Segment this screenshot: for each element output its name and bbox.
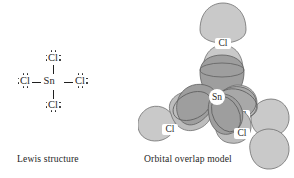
orbital-label-sn: Sn — [209, 89, 225, 105]
lewis-label-cl-bottom: Cl — [48, 100, 58, 111]
orbital-overlap-panel: .cl-lobe{fill:#c9c9c9;stroke:#6e6e6e;str… — [138, 0, 294, 178]
lone-pair-dot — [46, 55, 48, 57]
lewis-structure-panel: Cl Cl Sn Cl — [0, 0, 147, 178]
lewis-label-cl-top: Cl — [48, 53, 58, 64]
lone-pair-dot — [59, 106, 61, 108]
lewis-label-cl-left: Cl — [20, 76, 30, 87]
lewis-label-sn: Sn — [44, 76, 55, 87]
lone-pair-dot — [46, 102, 48, 104]
lone-pair-dot — [55, 110, 57, 112]
orbital-label-cl-top: Cl — [215, 38, 231, 49]
lone-pair-dot — [51, 110, 53, 112]
cl-left-label-text: Cl — [166, 124, 175, 134]
lone-pair-dot — [46, 59, 48, 61]
cl-top-label-text: Cl — [219, 38, 228, 48]
lone-pair-dot — [86, 82, 88, 84]
lone-pair-dot — [59, 55, 61, 57]
sn-label-text: Sn — [212, 92, 222, 102]
lewis-caption: Lewis structure — [17, 153, 79, 164]
lone-pair-dot — [86, 78, 88, 80]
lewis-bond-bottom — [53, 90, 54, 99]
lone-pair-dot — [46, 106, 48, 108]
cl-right-lower-outer-lobe — [250, 129, 289, 169]
lewis-bond-top — [53, 65, 54, 74]
lone-pair-dot — [59, 102, 61, 104]
lone-pair-dot — [59, 59, 61, 61]
lewis-label-cl-right: Cl — [75, 76, 85, 87]
lewis-bond-right — [64, 82, 73, 83]
cl-top-outer-lobe — [200, 3, 246, 43]
orbital-overlap-diagram: .cl-lobe{fill:#c9c9c9;stroke:#6e6e6e;str… — [138, 0, 294, 178]
figure-snc l4: Cl Cl Sn Cl — [0, 0, 294, 178]
orbital-label-cl-right-lower: Cl — [234, 128, 250, 139]
lewis-bond-left — [32, 82, 41, 83]
orbital-caption: Orbital overlap model — [144, 153, 232, 164]
orbital-label-cl-left: Cl — [162, 124, 178, 135]
cl-right-lower-label-text: Cl — [238, 128, 247, 138]
